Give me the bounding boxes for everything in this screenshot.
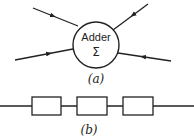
figure-b: (b)	[0, 97, 194, 137]
block-2	[77, 97, 107, 115]
sigma-symbol: Σ	[92, 45, 100, 59]
input-line-top-left	[33, 8, 78, 26]
figure-a: Adder Σ (a)	[15, 4, 171, 86]
block-1	[32, 97, 61, 115]
output-line-right	[118, 53, 171, 61]
diagram-canvas: Adder Σ (a) (b)	[0, 0, 194, 138]
adder-label: Adder	[81, 31, 111, 43]
input-line-bottom-left	[15, 49, 73, 60]
input-line-top-right	[113, 4, 148, 30]
block-3	[123, 97, 153, 115]
caption-a: (a)	[88, 72, 105, 86]
caption-b: (b)	[80, 123, 97, 137]
